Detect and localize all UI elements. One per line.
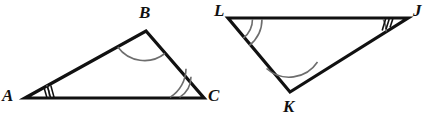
triangle-lkj: [228, 18, 408, 92]
angle-b-mark: [118, 47, 165, 61]
angle-b-arc: [118, 47, 165, 61]
triangle-lkj-outline: [228, 18, 408, 92]
geometry-figure: A B C L K J: [0, 0, 430, 117]
vertex-label-l: L: [214, 2, 224, 19]
angle-a-tick-3: [51, 85, 54, 98]
vertex-label-c: C: [208, 87, 219, 104]
vertex-label-k: K: [283, 98, 294, 115]
triangle-abc: [25, 31, 204, 98]
vertex-label-j: J: [413, 2, 422, 19]
angle-j-tick-2: [386, 19, 389, 29]
angle-l-arc-outer: [249, 19, 262, 46]
angle-l-arc-inner: [243, 19, 252, 38]
angle-a-tick-1: [44, 88, 47, 98]
vertex-label-b: B: [139, 4, 150, 21]
vertex-label-a: A: [2, 87, 13, 104]
